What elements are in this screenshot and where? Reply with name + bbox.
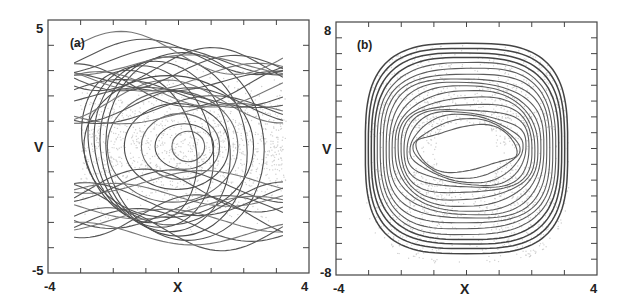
panel-a-ymin-label: -5	[32, 263, 44, 278]
panel-b-label: (b)	[357, 38, 372, 52]
figure: (a) 5 -5 -4 4 X V (b) 8 -8 -4 4 X V	[0, 0, 625, 308]
panel-a-xmax-label: 4	[301, 279, 309, 294]
panel-b-ylabel: V	[322, 141, 332, 157]
panel-b: (b) 8 -8 -4 4 X V	[320, 22, 598, 297]
panel-a: (a) 5 -5 -4 4 X V	[32, 20, 309, 295]
panel-b-trajectories	[365, 43, 567, 253]
panel-b-ymax-label: 8	[324, 23, 331, 38]
panel-b-xlabel: X	[460, 281, 470, 297]
panel-b-frame	[336, 22, 597, 275]
panel-b-ymin-label: -8	[320, 265, 332, 280]
panel-a-ylabel: V	[34, 139, 44, 155]
panel-b-xmin-label: -4	[333, 281, 345, 296]
panel-a-xlabel: X	[173, 279, 183, 295]
panel-a-ymax-label: 5	[36, 21, 43, 36]
panel-b-xmax-label: 4	[590, 281, 598, 296]
panel-a-xmin-label: -4	[44, 279, 56, 294]
panel-a-label: (a)	[70, 36, 85, 50]
panel-b-ticks	[336, 22, 597, 275]
